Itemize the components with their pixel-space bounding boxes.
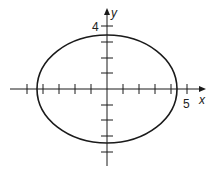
x-tick-label-5: 5 xyxy=(183,97,190,111)
diagram-canvas: 4 y 5 x xyxy=(0,0,213,177)
y-axis-label: y xyxy=(110,6,118,20)
x-axis-arrow-icon xyxy=(199,86,206,92)
y-axis-arrow-icon xyxy=(104,8,110,15)
y-tick-label-4: 4 xyxy=(92,20,99,34)
x-axis-label: x xyxy=(198,93,206,107)
